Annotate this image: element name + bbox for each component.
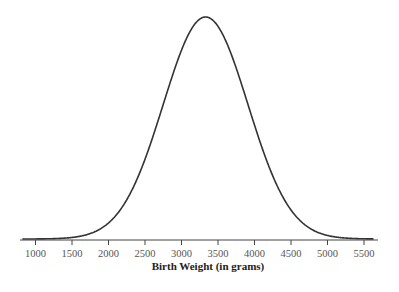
x-tick-label: 3500 xyxy=(208,248,229,259)
x-tick-label: 2000 xyxy=(98,248,119,259)
x-tick-label: 1500 xyxy=(62,248,83,259)
normal-distribution-curve xyxy=(22,17,373,239)
x-tick-label: 4000 xyxy=(244,248,265,259)
x-axis-tick-labels: 1000150020002500300035004000450050005500 xyxy=(25,248,375,259)
birth-weight-chart: 1000150020002500300035004000450050005500… xyxy=(0,0,399,292)
x-tick-label: 5500 xyxy=(354,248,375,259)
x-tick-label: 3000 xyxy=(171,248,192,259)
x-tick-label: 2500 xyxy=(135,248,156,259)
x-tick-label: 5000 xyxy=(317,248,338,259)
x-axis-ticks xyxy=(36,240,365,245)
x-tick-label: 4500 xyxy=(281,248,302,259)
x-axis-label: Birth Weight (in grams) xyxy=(152,260,265,273)
x-tick-label: 1000 xyxy=(25,248,46,259)
